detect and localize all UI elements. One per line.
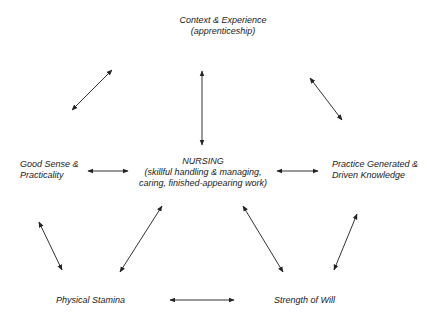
node-bottom-left-line1: Physical Stamina [56, 295, 125, 306]
node-good-sense: Good Sense & Practicality [20, 159, 79, 181]
node-right-line1: Practice Generated & [332, 159, 418, 170]
node-right-line2: Driven Knowledge [332, 170, 418, 181]
arrow-center-bottomright [243, 206, 283, 272]
node-center-line3: caring, finished-appearing work) [128, 178, 278, 189]
node-practice-knowledge: Practice Generated & Driven Knowledge [332, 159, 418, 181]
node-strength-of-will: Strength of Will [274, 295, 335, 306]
node-top-line1: Context & Experience [158, 15, 288, 26]
node-left-line1: Good Sense & [20, 159, 79, 170]
arrow-right-bottomright [334, 214, 357, 270]
node-bottom-right-line1: Strength of Will [274, 295, 335, 306]
node-center-line2: (skillful handling & managing, [128, 167, 278, 178]
node-physical-stamina: Physical Stamina [56, 295, 125, 306]
arrow-top-left [72, 70, 112, 110]
arrow-left-bottomleft [39, 222, 62, 270]
node-context-experience: Context & Experience (apprenticeship) [158, 15, 288, 37]
node-left-line2: Practicality [20, 170, 79, 181]
node-nursing: NURSING (skillful handling & managing, c… [128, 156, 278, 189]
arrow-top-right [310, 78, 342, 120]
diagram-canvas: Context & Experience (apprenticeship) NU… [0, 0, 437, 325]
node-center-line1: NURSING [128, 156, 278, 167]
arrow-center-bottomleft [120, 206, 162, 272]
node-top-line2: (apprenticeship) [158, 26, 288, 37]
